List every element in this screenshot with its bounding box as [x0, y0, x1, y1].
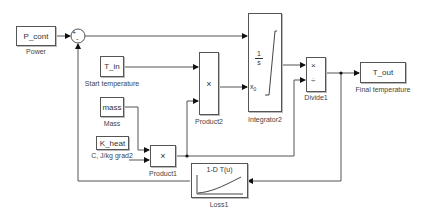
product2-block[interactable]: × [199, 52, 219, 115]
pcont-constant-block[interactable]: P_cont [16, 26, 56, 46]
loss1-lookup-block[interactable]: 1-D T(u) [191, 163, 248, 198]
tin-text: T_in [104, 62, 120, 71]
loss1-text: 1-D T(u) [192, 166, 247, 173]
integrator2-block[interactable]: 1 s x0 [248, 13, 282, 112]
branch-point [185, 154, 188, 157]
multiply-icon: × [311, 61, 316, 70]
divide-icon: ÷ [311, 76, 315, 85]
pcont-text: P_cont [24, 32, 49, 41]
tout-text: T_out [373, 68, 393, 77]
product1-label: Product1 [149, 170, 177, 177]
tout-label: Final temperature [356, 86, 411, 93]
branch-point [339, 71, 342, 74]
kheat-text: K_heat [100, 139, 125, 148]
divide1-block[interactable]: × ÷ [306, 57, 326, 92]
tout-block[interactable]: T_out [360, 62, 406, 83]
integrator-numerator: 1 [255, 50, 263, 58]
integrator2-label: Integrator2 [248, 116, 282, 123]
integrator-denominator: s [255, 58, 263, 67]
integrator-ic-port: x0 [250, 83, 256, 92]
tin-label: Start temperature [85, 80, 139, 87]
lookup-curve-icon [195, 174, 245, 196]
divide1-label: Divide1 [304, 94, 327, 101]
pcont-label: Power [26, 48, 46, 55]
sum-minus-sign: - [76, 35, 78, 42]
tin-constant-block[interactable]: T_in [100, 56, 124, 77]
loss1-label: Loss1 [210, 201, 229, 208]
multiply-icon: × [206, 79, 211, 89]
wire-product1-divide1 [294, 80, 305, 156]
diagram-canvas: + - P_cont Power T_in Start temperature … [0, 0, 427, 219]
kheat-constant-block[interactable]: K_heat [96, 136, 129, 150]
multiply-icon: × [160, 151, 165, 161]
integrator-ramp-icon [263, 28, 279, 98]
mass-constant-block[interactable]: mass [100, 97, 124, 117]
product2-label: Product2 [195, 118, 223, 125]
wire-product1-product2 [187, 101, 198, 156]
mass-text: mass [102, 103, 121, 112]
integrator-transfer-fn: 1 s [255, 50, 263, 67]
product1-block[interactable]: × [150, 145, 176, 167]
kheat-label: C, J/kg grad2 [91, 152, 133, 159]
mass-label: Mass [104, 120, 121, 127]
